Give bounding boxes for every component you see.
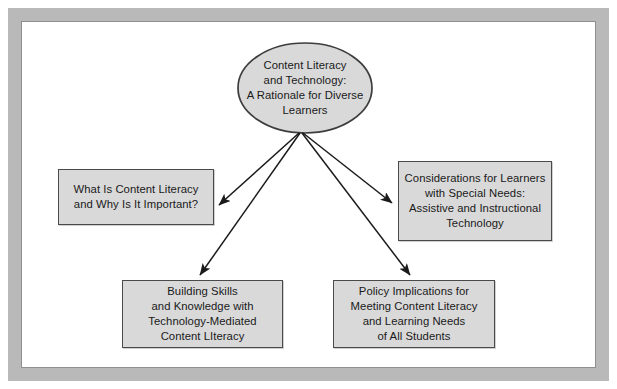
connector-to-left [219, 133, 299, 205]
node-building-skills-label: Building Skills and Knowledge with Techn… [143, 284, 261, 345]
node-considerations-for-learners-label: Considerations for Learners with Special… [400, 171, 551, 232]
node-what-is-content-literacy-label: What Is Content Literacy and Why Is It I… [69, 182, 204, 212]
node-policy-implications-label: Policy Implications for Meeting Content … [346, 284, 483, 345]
node-policy-implications[interactable]: Policy Implications for Meeting Content … [333, 280, 495, 348]
diagram-canvas: Content Literacy and Technology: A Ratio… [0, 0, 617, 389]
connector-to-bottom-left [200, 133, 300, 275]
node-considerations-for-learners[interactable]: Considerations for Learners with Special… [398, 161, 552, 241]
node-building-skills[interactable]: Building Skills and Knowledge with Techn… [122, 280, 283, 348]
node-what-is-content-literacy[interactable]: What Is Content Literacy and Why Is It I… [58, 169, 214, 225]
connector-to-bottom-right [302, 133, 410, 275]
root-ellipse-shape [238, 43, 372, 133]
